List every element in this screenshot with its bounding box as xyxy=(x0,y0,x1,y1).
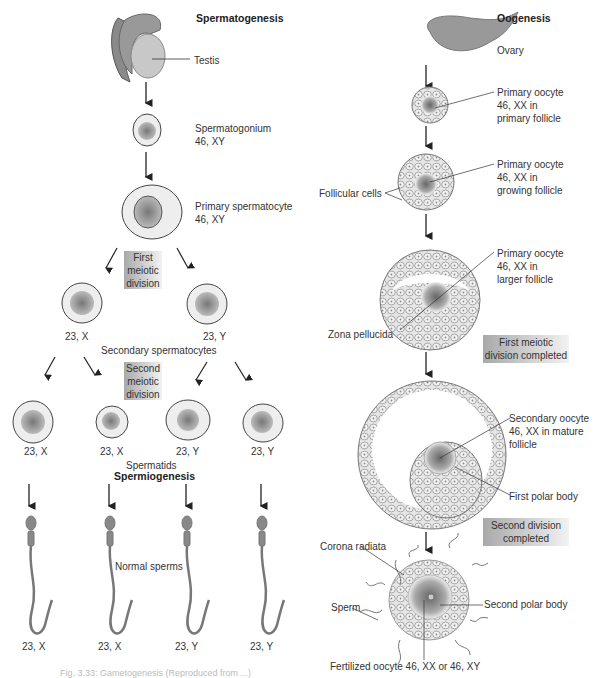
corona-radiata-label: Corona radiata xyxy=(320,540,386,553)
first-meiotic-completed-box: First meiotic division completed xyxy=(483,335,569,363)
fertilized-oocyte-label: Fertilized oocyte 46, XX or 46, XY xyxy=(330,660,480,673)
normal-sperms-label: Normal sperms xyxy=(115,560,183,573)
second-meiotic-division-box: Second meiotic division xyxy=(124,362,162,400)
follicular-cells-label: Follicular cells xyxy=(319,187,382,200)
second-division-completed-box: Second division completed xyxy=(483,518,569,546)
spermatogonium-label: Spermatogonium 46, XY xyxy=(195,122,271,148)
sperm-label: 23, X xyxy=(22,640,45,653)
larger-follicle-label: Primary oocyte 46, XX in larger follicle xyxy=(497,247,564,286)
spermatid-label: 23, X xyxy=(24,445,47,458)
second-polar-body-label: Second polar body xyxy=(484,598,567,611)
sperm-label: 23, Y xyxy=(175,640,198,653)
testis-icon xyxy=(112,14,190,82)
secondary-label-x: 23, X xyxy=(65,330,88,343)
secondary-label-y: 23, Y xyxy=(203,330,226,343)
spermatid-label: 23, Y xyxy=(176,445,199,458)
oogenesis-title: Oogenesis xyxy=(497,12,551,25)
figure-caption: Fig. 3.33: Gametogenesis (Reproduced fro… xyxy=(60,668,251,678)
secondary-spermatocytes-label: Secondary spermatocytes xyxy=(101,344,217,357)
zona-pellucida-label: Zona pellucida xyxy=(328,328,393,341)
sperm-icon xyxy=(26,516,52,633)
growing-follicle-label: Primary oocyte 46, XX in growing follicl… xyxy=(497,158,564,197)
spermatid-label: 23, Y xyxy=(251,445,274,458)
spermatid-label: 23, X xyxy=(100,445,123,458)
spermiogenesis-title: Spermiogenesis xyxy=(114,470,195,483)
sperm-icon xyxy=(105,516,132,633)
sperm-label: 23, X xyxy=(98,640,121,653)
spermatogenesis-title: Spermatogenesis xyxy=(196,12,284,25)
mature-follicle-label: Secondary oocyte 46, XX in mature follic… xyxy=(509,412,610,451)
testis-label: Testis xyxy=(194,54,220,67)
ovary-label: Ovary xyxy=(497,44,524,57)
sperm-icon xyxy=(182,516,209,633)
primary-follicle-label: Primary oocyte 46, XX in primary follicl… xyxy=(497,86,564,125)
primary-spermatocyte-label: Primary spermatocyte 46, XY xyxy=(195,200,292,226)
first-polar-body-label: First polar body xyxy=(509,490,578,503)
first-meiotic-division-box: First meiotic division xyxy=(124,251,162,289)
sperm-label: Sperm xyxy=(331,601,360,614)
sperm-label: 23, Y xyxy=(250,640,273,653)
sperm-icon xyxy=(257,516,284,633)
